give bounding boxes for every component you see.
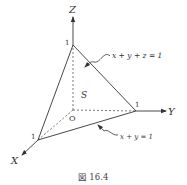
line-equation-label: x + y = 1 [120,133,153,141]
y-axis-label: Y [168,106,176,117]
figure-caption: 図 16.4 [78,172,109,182]
tetrahedron-diagram: Z Y X O 1 1 1 S x + y + z = 1 x + y = 1 … [0,0,187,185]
z-axis-label: Z [68,4,77,15]
plane-leader [85,54,110,67]
edge-z-x [38,45,73,140]
x-intercept-label: 1 [31,133,35,141]
x-axis [22,140,38,155]
line-leader [98,125,118,135]
plane-equation-label: x + y + z = 1 [112,51,162,60]
region-label: S [81,90,87,100]
z-intercept-label: 1 [65,39,69,47]
origin-label: O [69,114,76,123]
hidden-edge-oy [73,110,136,111]
x-axis-label: X [10,155,19,166]
y-intercept-label: 1 [135,101,139,109]
